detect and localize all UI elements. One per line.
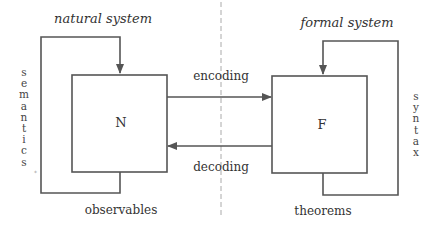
letter: s [18,157,30,168]
theorems-label: theorems [294,204,351,218]
modeling-relation-diagram: natural system formal system N F encodin… [0,0,438,230]
letter: n [410,113,422,124]
decoding-label: decoding [193,160,249,174]
formal-system-box-label: F [317,117,326,132]
natural-system-box-label: N [115,115,126,130]
observables-label: observables [85,203,158,217]
natural-system-heading: natural system [54,11,152,26]
encoding-label: encoding [193,69,249,83]
syntax-vertical-label: s y n t a x [410,91,422,158]
asterisk-mark: * [34,169,37,176]
semantics-vertical-label: s e m a n t i c s [18,67,30,168]
letter: m [18,89,30,100]
formal-system-heading: formal system [299,15,393,30]
letter: c [18,145,30,156]
letter: x [410,147,422,158]
